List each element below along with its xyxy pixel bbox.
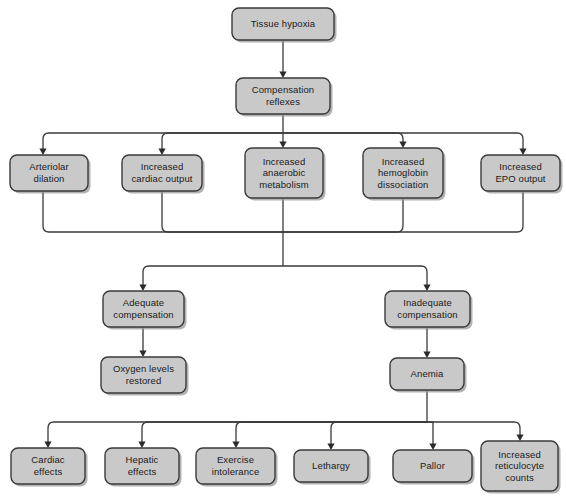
- arrowhead-icon: [158, 149, 165, 156]
- node-label-line: Adequate: [123, 297, 164, 308]
- node-layer: Tissue hypoxiaCompensationreflexesArteri…: [10, 8, 563, 494]
- node-oxygen-levels-restored[interactable]: Oxygen levelsrestored: [101, 357, 189, 396]
- node-label: Inadequatecompensation: [397, 297, 457, 320]
- connector-line: [143, 266, 283, 285]
- arrowhead-icon: [138, 442, 145, 449]
- node-label-line: compensation: [397, 308, 457, 319]
- arrowhead-icon: [327, 444, 334, 451]
- node-label-line: Pallor: [420, 460, 445, 471]
- node-increased-hemoglobin-dissociation[interactable]: Increasedhemoglobindissociation: [363, 148, 446, 201]
- connector-line: [427, 422, 520, 435]
- node-pallor[interactable]: Pallor: [393, 450, 475, 485]
- node-label-line: anaerobic: [263, 167, 306, 178]
- node-exercise-intolerance[interactable]: Exerciseintolerance: [196, 448, 278, 487]
- node-inadequate-compensation[interactable]: Inadequatecompensation: [385, 291, 473, 330]
- node-label-line: Arteriolar: [29, 161, 69, 172]
- node-label-line: Hepatic: [126, 454, 159, 465]
- arrowhead-icon: [279, 72, 286, 79]
- node-label-line: Increased: [499, 161, 542, 172]
- node-label: Tissue hypoxia: [251, 18, 316, 29]
- connector-anemia-to-lethargy: [327, 422, 427, 450]
- node-cardiac-effects[interactable]: Cardiaceffects: [11, 448, 88, 487]
- node-label-line: Lethargy: [312, 460, 350, 471]
- arrowhead-icon: [39, 149, 46, 156]
- node-compensation-reflexes[interactable]: Compensationreflexes: [236, 78, 333, 117]
- node-increased-cardiac-output[interactable]: Increasedcardiac output: [122, 155, 205, 194]
- node-label-line: Increased: [263, 155, 306, 166]
- node-label-line: Tissue hypoxia: [251, 18, 316, 29]
- arrowhead-icon: [423, 285, 430, 292]
- arrowhead-icon: [232, 442, 239, 449]
- node-label: Arteriolardilation: [29, 161, 69, 184]
- node-label-line: EPO output: [495, 172, 545, 183]
- node-label: Lethargy: [312, 460, 350, 471]
- node-label-line: Increased: [382, 155, 425, 166]
- connector-line: [283, 198, 403, 232]
- node-label-line: counts: [505, 471, 534, 482]
- node-adequate-compensation[interactable]: Adequatecompensation: [103, 291, 187, 330]
- node-label-line: compensation: [113, 308, 173, 319]
- node-label-line: Cardiac: [31, 454, 65, 465]
- node-label-line: reflexes: [266, 95, 300, 106]
- node-label: IncreasedEPO output: [495, 161, 545, 184]
- flowchart-svg: Tissue hypoxiaCompensationreflexesArteri…: [0, 0, 566, 497]
- connector-hypoxia-to-reflexes: [279, 40, 286, 78]
- node-label: Pallor: [420, 460, 445, 471]
- node-increased-reticulocyte-counts[interactable]: Increasedreticulocytecounts: [481, 441, 561, 494]
- connector-line: [142, 422, 427, 442]
- node-label-line: effects: [128, 465, 157, 476]
- connector-anemia-to-pallor: [427, 422, 437, 450]
- node-label-line: hemoglobin: [378, 167, 428, 178]
- node-hepatic-effects[interactable]: Hepaticeffects: [105, 448, 182, 487]
- node-anemia[interactable]: Anemia: [390, 358, 467, 393]
- node-label-line: Increased: [141, 161, 184, 172]
- node-label-line: reticulocyte: [495, 460, 544, 471]
- connector-line: [331, 422, 427, 444]
- connector-inadequate-to-anemia: [423, 327, 430, 358]
- connector-hemoglobin-merge: [283, 198, 403, 232]
- connector-split-to-inadequate: [283, 266, 431, 291]
- connector-split-to-adequate: [139, 266, 283, 291]
- connector-reflexes-to-anaerobic: [279, 133, 286, 148]
- arrowhead-icon: [429, 444, 436, 451]
- arrowhead-icon: [399, 142, 406, 149]
- arrowhead-icon: [139, 285, 146, 292]
- flowchart-canvas: Tissue hypoxiaCompensationreflexesArteri…: [0, 0, 566, 497]
- node-increased-epo-output[interactable]: IncreasedEPO output: [481, 155, 563, 194]
- node-label-line: Anemia: [411, 368, 444, 379]
- node-label-line: restored: [126, 374, 162, 385]
- connector-line: [48, 422, 427, 442]
- node-label-line: Compensation: [252, 84, 314, 95]
- node-label-line: cardiac output: [131, 172, 192, 183]
- node-label-line: Oxygen levels: [113, 363, 174, 374]
- connector-line: [283, 266, 427, 285]
- arrowhead-icon: [423, 352, 430, 359]
- node-label: Increasedanaerobicmetabolism: [259, 155, 309, 189]
- node-arteriolar-dilation[interactable]: Arteriolardilation: [10, 155, 91, 194]
- connector-line: [162, 133, 283, 149]
- node-tissue-hypoxia[interactable]: Tissue hypoxia: [232, 8, 337, 43]
- arrowhead-icon: [519, 149, 526, 156]
- connector-line: [43, 191, 283, 232]
- arrowhead-icon: [139, 351, 146, 358]
- connector-anemia-to-hepatic-effects: [138, 422, 427, 448]
- node-label: Hepaticeffects: [126, 454, 159, 477]
- node-label-line: Increased: [498, 448, 541, 459]
- node-label-line: Exercise: [217, 454, 254, 465]
- node-label: Exerciseintolerance: [212, 454, 260, 477]
- connector-line: [427, 422, 433, 444]
- node-increased-anaerobic-metabolism[interactable]: Increasedanaerobicmetabolism: [245, 148, 326, 201]
- connector-arteriolar-merge: [43, 191, 283, 232]
- arrowhead-icon: [44, 442, 51, 449]
- connector-line: [283, 133, 403, 142]
- node-label-line: dilation: [34, 172, 65, 183]
- connector-anemia-to-reticulocyte: [427, 422, 524, 441]
- connector-reflexes-to-hemoglobin: [283, 133, 407, 148]
- node-label-line: metabolism: [259, 178, 309, 189]
- connector-adequate-to-oxygen: [139, 327, 146, 357]
- node-label-line: intolerance: [212, 465, 260, 476]
- node-label-line: dissociation: [378, 178, 429, 189]
- node-label-line: effects: [34, 465, 63, 476]
- arrowhead-icon: [279, 142, 286, 149]
- node-lethargy[interactable]: Lethargy: [294, 450, 371, 485]
